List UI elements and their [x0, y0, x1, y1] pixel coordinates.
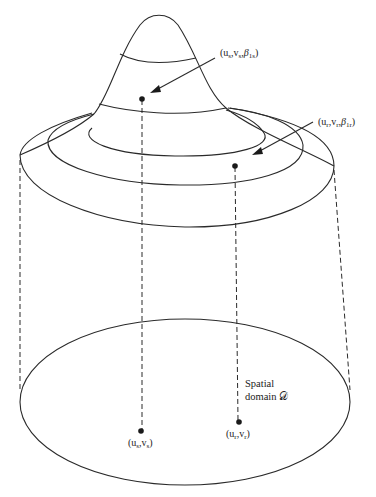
peak-point-label: (us,vs,β1s) [220, 47, 258, 60]
surface-outer-rim-back [20, 113, 92, 155]
ring-point-label: (ur,vr,β1r) [318, 116, 355, 129]
surface-middle-ring-back [48, 114, 94, 140]
projection-right-edge [334, 170, 350, 390]
base-point-s-label: (us,vs) [128, 437, 153, 450]
projection-ring-point [235, 167, 238, 420]
base-point-r-label: (ur,vr) [226, 428, 250, 441]
ring-point-marker [232, 163, 238, 169]
peak-point-marker [139, 96, 145, 102]
peak-contour-mid [99, 104, 226, 113]
spatial-domain-label-line1: Spatial [245, 378, 274, 389]
spatial-domain-ellipse [20, 319, 350, 485]
surface-peak [94, 15, 334, 166]
ring-arrow-head-icon [252, 147, 263, 155]
base-point-s-marker [138, 428, 144, 434]
surface-peak-left-edge [20, 114, 94, 155]
peak-arrow-head-icon [150, 85, 161, 93]
peak-contour-upper [120, 54, 196, 62]
surface-diagram: (us,vs,β1s) (ur,vr,β1r) Spatial domain 𝒟… [0, 0, 376, 497]
ring-label-arrow [258, 122, 313, 152]
base-point-r-marker [236, 419, 242, 425]
spatial-domain-label-line2: domain 𝒟 [245, 391, 288, 402]
